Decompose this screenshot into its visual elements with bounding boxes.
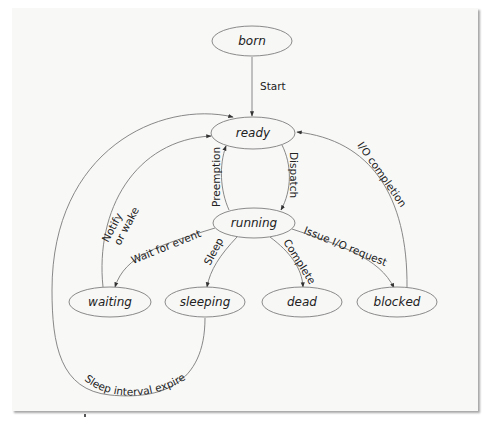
edge-label-wait-for-event: Wait for event <box>129 227 202 266</box>
state-sleeping[interactable]: sleeping <box>165 287 245 317</box>
state-waiting[interactable]: waiting <box>69 287 151 317</box>
edge-label-dispatch: Dispatch <box>288 152 300 198</box>
edge-label-preemption: Preemption <box>210 147 222 207</box>
edge-label-complete: Complete <box>281 237 318 286</box>
state-blocked[interactable]: blocked <box>357 287 437 317</box>
edge-labels: Start Dispatch Preemption Wait for event… <box>0 0 409 398</box>
edge-io-completion-arrow <box>297 132 407 288</box>
edge-label-io-completion: I/O completion <box>355 139 409 209</box>
state-waiting-label: waiting <box>88 295 132 309</box>
state-sleeping-label: sleeping <box>180 295 231 309</box>
state-dead[interactable]: dead <box>262 287 342 317</box>
state-dead-label: dead <box>287 295 317 309</box>
edge-preemption-arrow <box>221 146 229 210</box>
stray-mark <box>84 414 86 417</box>
state-ready[interactable]: ready <box>211 117 295 149</box>
state-born-label: born <box>238 34 266 48</box>
edge-label-start: Start <box>260 80 286 92</box>
state-ready-label: ready <box>236 126 271 140</box>
state-running-label: running <box>231 216 278 230</box>
edge-label-sleep-interval-expires: Sleep interval expires <box>0 0 187 398</box>
state-blocked-label: blocked <box>374 295 421 309</box>
state-running[interactable]: running <box>213 208 295 238</box>
state-born[interactable]: born <box>212 26 292 56</box>
state-diagram: Start Dispatch Preemption Wait for event… <box>0 0 489 425</box>
edge-label-issue-io-request: Issue I/O request <box>302 224 389 268</box>
edge-notify-or-wake-arrow <box>102 136 211 287</box>
edge-label-sleep: Sleep <box>201 235 225 267</box>
